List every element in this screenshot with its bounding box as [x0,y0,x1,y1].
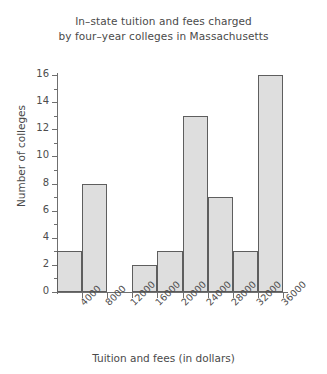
y-tick [52,238,57,239]
y-tick [54,170,57,171]
y-tick-label: 0 [9,285,49,296]
y-axis-title: Number of colleges [15,91,27,221]
x-axis-title: Tuition and fees (in dollars) [0,352,327,364]
y-tick [52,184,57,185]
y-tick [54,197,57,198]
y-tick [52,102,57,103]
y-tick [54,116,57,117]
y-tick [54,224,57,225]
y-tick [52,156,57,157]
bar [82,184,107,293]
y-tick [52,211,57,212]
y-tick-label: 2 [9,258,49,269]
y-tick [52,292,57,293]
y-tick [54,143,57,144]
bar [183,116,208,292]
histogram-chart: In–state tuition and fees charged by fou… [0,0,327,374]
bar [57,251,82,292]
bar [258,75,283,292]
y-tick [52,129,57,130]
y-tick [54,89,57,90]
plot-area: 0246810121416 40008000120001600020000240… [0,0,327,374]
y-tick-label: 16 [9,68,49,79]
bar [208,197,233,292]
y-tick-label: 4 [9,231,49,242]
y-tick [52,75,57,76]
